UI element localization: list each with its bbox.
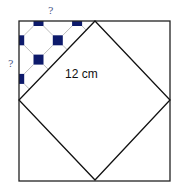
- octagon-edge: [24, 142, 33, 151]
- octagon-edge: [5, 7, 14, 16]
- diagonal-length-label: 12 cm: [65, 67, 98, 81]
- navy-tile-square: [111, 132, 121, 142]
- octagon-edge: [44, 84, 53, 93]
- navy-tile-square: [14, 0, 24, 7]
- navy-tile-square: [0, 55, 5, 65]
- navy-tile-square: [0, 16, 5, 26]
- top-unknown-label: ?: [48, 5, 53, 16]
- navy-tile-square: [111, 93, 121, 103]
- octagon-edge: [82, 45, 91, 54]
- octagon-edge: [63, 7, 72, 16]
- octagon-edge: [82, 26, 91, 35]
- octagon-edge: [82, 142, 91, 151]
- inner-diamond: [19, 21, 170, 180]
- octagon-edge: [101, 123, 110, 132]
- octagon-edge: [44, 45, 53, 54]
- octagon-edge: [5, 103, 14, 112]
- octagon-edge: [101, 7, 110, 16]
- navy-tile-square: [53, 113, 63, 123]
- octagon-edge: [63, 103, 72, 112]
- octagon-edge: [63, 84, 72, 93]
- octagon-edge: [101, 65, 110, 74]
- navy-tile-square: [34, 55, 44, 65]
- octagon-edge: [121, 142, 130, 151]
- left-unknown-label: ?: [8, 58, 13, 69]
- octagon-edge: [121, 7, 130, 16]
- octagon-edge: [5, 26, 14, 35]
- navy-tile-square: [130, 113, 140, 123]
- octagon-edge: [63, 142, 72, 151]
- navy-tile-square: [34, 132, 44, 142]
- navy-tile-square: [53, 35, 63, 45]
- octagon-edge: [140, 45, 149, 54]
- octagon-edge: [101, 26, 110, 35]
- navy-tile-square: [34, 93, 44, 103]
- octagon-edge: [82, 103, 91, 112]
- octagon-edge: [63, 123, 72, 132]
- navy-tile-square: [53, 74, 63, 84]
- navy-tile-square: [91, 35, 101, 45]
- octagon-edge: [82, 123, 91, 132]
- navy-tile-square: [130, 0, 140, 7]
- octagon-edge: [5, 123, 14, 132]
- octagon-edge: [101, 84, 110, 93]
- octagon-edge: [121, 123, 130, 132]
- octagon-edge: [24, 7, 33, 16]
- navy-tile-square: [111, 55, 121, 65]
- octagon-edge: [101, 142, 110, 151]
- octagon-edge: [24, 65, 33, 74]
- navy-tile-square: [0, 132, 5, 142]
- octagon-edge: [63, 26, 72, 35]
- octagon-edge: [5, 84, 14, 93]
- octagon-edge: [121, 84, 130, 93]
- navy-tile-square: [91, 0, 101, 7]
- octagon-edge: [140, 7, 149, 16]
- octagon-edge: [24, 84, 33, 93]
- octagon-edge: [101, 45, 110, 54]
- navy-tile-square: [53, 0, 63, 7]
- octagon-edge: [24, 26, 33, 35]
- navy-tile-square: [130, 74, 140, 84]
- geometry-figure: ? ? 12 cm: [0, 0, 179, 189]
- octagon-edge: [101, 103, 110, 112]
- navy-tile-square: [0, 93, 5, 103]
- octagon-edge: [44, 142, 53, 151]
- navy-tile-square: [72, 93, 82, 103]
- navy-tile-square: [72, 132, 82, 142]
- octagon-edge: [24, 123, 33, 132]
- navy-tile-square: [91, 113, 101, 123]
- octagon-edge: [44, 26, 53, 35]
- octagon-edge: [5, 142, 14, 151]
- octagon-edge: [82, 7, 91, 16]
- navy-tile-square: [130, 35, 140, 45]
- octagon-edge: [24, 45, 33, 54]
- octagon-edge: [121, 103, 130, 112]
- navy-tile-square: [72, 55, 82, 65]
- octagon-edge: [140, 84, 149, 93]
- octagon-edge: [44, 103, 53, 112]
- octagon-edge: [82, 84, 91, 93]
- octagon-edge: [121, 65, 130, 74]
- octagon-edge: [121, 26, 130, 35]
- outer-square: [19, 21, 170, 181]
- octagon-edge: [5, 45, 14, 54]
